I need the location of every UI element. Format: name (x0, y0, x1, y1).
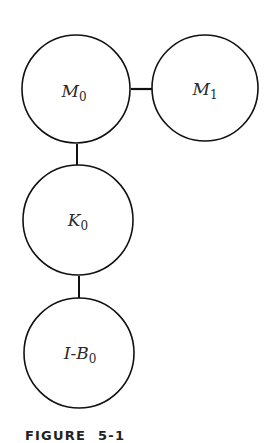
node-m1-label: M (191, 79, 210, 99)
figure-caption-word: FIGURE (25, 428, 86, 443)
node-m0: M0 (22, 35, 130, 143)
tree-diagram: M0 M1 K0 I-B0 (0, 0, 272, 443)
node-ib0-subscript: 0 (89, 352, 97, 366)
node-k0: K0 (23, 165, 133, 275)
figure-caption-number: 5-1 (98, 428, 125, 443)
node-ib0-label: I-B (63, 343, 89, 363)
node-m0-subscript: 0 (79, 90, 87, 104)
node-m0-label: M (60, 81, 79, 101)
node-m1-subscript: 1 (210, 88, 218, 102)
node-m1: M1 (152, 35, 258, 141)
node-ib0: I-B0 (24, 298, 134, 408)
figure-caption: FIGURE5-1 (25, 428, 125, 443)
node-k0-subscript: 0 (81, 219, 89, 233)
